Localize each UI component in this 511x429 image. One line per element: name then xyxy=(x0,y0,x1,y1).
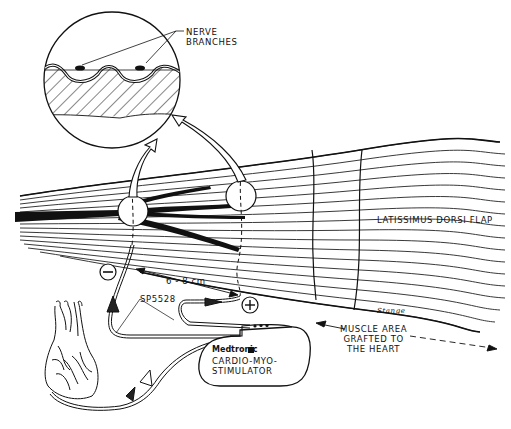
positive-electrode xyxy=(242,297,258,313)
magnified-inset xyxy=(40,12,184,148)
negative-electrode xyxy=(100,264,116,280)
heart-illustration xyxy=(45,301,98,399)
device-name-label: CARDIO-MYO- STIMULATOR xyxy=(212,356,277,376)
muscle-flap-label: LATISSIMUS DORSI FLAP xyxy=(377,215,493,225)
nerve-branches-label: NERVE BRANCHES xyxy=(186,27,237,47)
lead-label-pointers xyxy=(116,299,174,333)
lead-model-label: SP5528 xyxy=(140,294,176,304)
latissimus-dorsi-muscle xyxy=(20,139,505,333)
fascia-lines xyxy=(20,139,500,333)
distance-label: 6 - 8 cm xyxy=(166,276,206,286)
device-brand-label: Medtronic xyxy=(212,345,258,355)
signature: Stange xyxy=(377,306,406,316)
grafted-area-label: MUSCLE AREA GRAFTED TO THE HEART xyxy=(340,324,407,354)
